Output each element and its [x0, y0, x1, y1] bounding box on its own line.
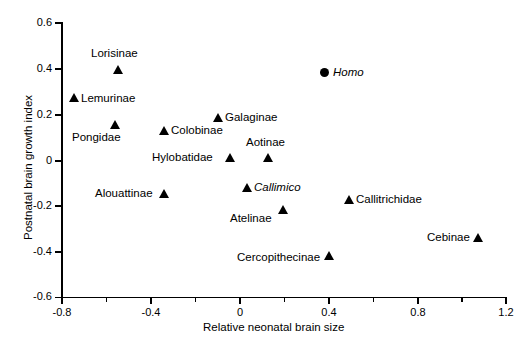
- x-tick-label-0.4: 0.4: [309, 307, 349, 318]
- y-axis-title: Postnatal brain growth index: [22, 95, 34, 240]
- y-tick-0.4: [55, 68, 61, 70]
- y-tick--0.2: [55, 205, 61, 207]
- x-minor-tick-0.6: [373, 297, 375, 302]
- point-label: Lemurinae: [81, 92, 135, 104]
- point-label: Hylobatidae: [152, 151, 213, 163]
- y-tick--0.4: [55, 251, 61, 253]
- x-minor-tick--0.2: [195, 297, 197, 302]
- point-label: Atelinae: [230, 212, 272, 224]
- x-minor-tick--0.6: [106, 297, 108, 302]
- triangle-marker: [278, 205, 288, 214]
- triangle-marker: [344, 195, 354, 204]
- y-tick-0.6: [55, 22, 61, 24]
- x-tick--0.4: [150, 297, 152, 304]
- y-tick-0.2: [55, 114, 61, 116]
- x-tick-label-1.2: 1.2: [486, 307, 526, 318]
- triangle-marker: [69, 93, 79, 102]
- triangle-marker: [473, 233, 483, 242]
- x-minor-tick-0.2: [284, 297, 286, 302]
- y-tick-label--0.4: -0.4: [20, 246, 52, 257]
- point-label: Callimico: [254, 181, 301, 193]
- x-minor-tick-1.0: [461, 297, 463, 302]
- x-tick--0.8: [61, 297, 63, 304]
- triangle-marker: [242, 183, 252, 192]
- circle-marker: [320, 68, 329, 77]
- x-tick-1.2: [505, 297, 507, 304]
- y-tick-0: [55, 160, 61, 162]
- x-axis-title: Relative neonatal brain size: [203, 321, 344, 333]
- x-tick-0: [239, 297, 241, 304]
- point-label: Pongidae: [72, 131, 121, 143]
- y-tick-label-0.6: 0.6: [20, 17, 52, 28]
- x-tick-0.4: [328, 297, 330, 304]
- x-tick-0.8: [417, 297, 419, 304]
- triangle-marker: [263, 153, 273, 162]
- triangle-marker: [159, 189, 169, 198]
- point-label: Homo: [333, 66, 364, 78]
- point-label: Colobinae: [171, 124, 223, 136]
- scatter-plot-figure: 0.6 0.4 0.2 0 -0.2 -0.4 -0.6 -0.8 -0.4 0…: [0, 0, 527, 351]
- triangle-marker: [324, 251, 334, 260]
- y-tick-label-0.4: 0.4: [20, 63, 52, 74]
- point-label: Callitrichidae: [356, 193, 422, 205]
- y-axis-line: [61, 22, 63, 298]
- y-tick-label--0.6: -0.6: [20, 291, 52, 302]
- triangle-marker: [110, 120, 120, 129]
- x-tick-label-0: 0: [220, 307, 260, 318]
- triangle-marker: [159, 126, 169, 135]
- point-label: Lorisinae: [91, 47, 138, 59]
- x-tick-label--0.4: -0.4: [131, 307, 171, 318]
- point-label: Alouattinae: [95, 187, 153, 199]
- point-label: Cebinae: [427, 231, 470, 243]
- triangle-marker: [213, 113, 223, 122]
- triangle-marker: [113, 65, 123, 74]
- point-label: Aotinae: [246, 136, 285, 148]
- point-label: Cercopithecinae: [237, 251, 320, 263]
- x-tick-label-0.8: 0.8: [398, 307, 438, 318]
- triangle-marker: [225, 153, 235, 162]
- x-tick-label--0.8: -0.8: [42, 307, 82, 318]
- point-label: Galaginae: [225, 111, 277, 123]
